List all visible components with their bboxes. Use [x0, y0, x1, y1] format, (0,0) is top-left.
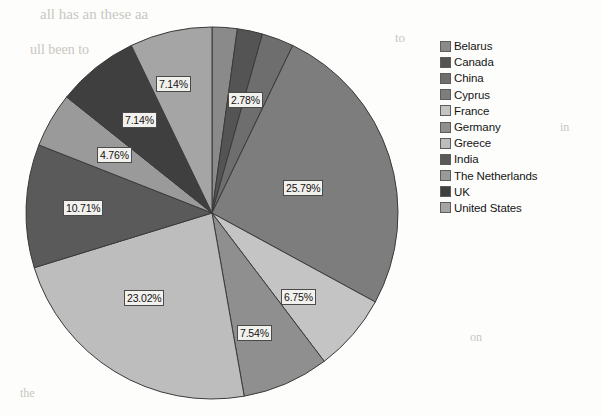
- legend-item-label: China: [454, 70, 484, 86]
- legend-swatch-icon: [440, 122, 451, 133]
- legend-item-india[interactable]: India: [440, 151, 538, 167]
- slice-label-germany: 7.54%: [237, 325, 272, 341]
- legend-item-canada[interactable]: Canada: [440, 54, 538, 70]
- legend-item-cyprus[interactable]: Cyprus: [440, 87, 538, 103]
- legend-item-the-netherlands[interactable]: The Netherlands: [440, 168, 538, 184]
- legend-item-label: The Netherlands: [454, 168, 538, 184]
- legend-swatch-icon: [440, 154, 451, 165]
- legend-swatch-icon: [440, 138, 451, 149]
- slice-label-cyprus: 25.79%: [283, 180, 323, 196]
- legend-item-uk[interactable]: UK: [440, 184, 538, 200]
- legend-item-france[interactable]: France: [440, 103, 538, 119]
- slice-label-united-states: 7.14%: [156, 76, 191, 92]
- legend-item-china[interactable]: China: [440, 70, 538, 86]
- legend-item-label: Canada: [454, 54, 494, 70]
- legend-swatch-icon: [440, 105, 451, 116]
- slice-label-india: 10.71%: [63, 200, 103, 216]
- chart-legend: BelarusCanadaChinaCyprusFranceGermanyGre…: [440, 38, 538, 216]
- legend-swatch-icon: [440, 41, 451, 52]
- legend-swatch-icon: [440, 186, 451, 197]
- legend-item-label: United States: [454, 200, 522, 216]
- legend-item-greece[interactable]: Greece: [440, 135, 538, 151]
- legend-item-label: Cyprus: [454, 87, 490, 103]
- legend-item-germany[interactable]: Germany: [440, 119, 538, 135]
- legend-item-label: Belarus: [454, 38, 492, 54]
- slice-label-china: 2.78%: [228, 92, 263, 108]
- legend-swatch-icon: [440, 170, 451, 181]
- legend-swatch-icon: [440, 202, 451, 213]
- legend-item-belarus[interactable]: Belarus: [440, 38, 538, 54]
- slice-label-greece: 23.02%: [124, 290, 164, 306]
- legend-swatch-icon: [440, 89, 451, 100]
- legend-swatch-icon: [440, 73, 451, 84]
- slice-label-netherlands: 4.76%: [97, 147, 132, 163]
- legend-item-label: UK: [454, 184, 470, 200]
- legend-swatch-icon: [440, 57, 451, 68]
- legend-item-label: France: [454, 103, 489, 119]
- legend-item-label: India: [454, 151, 478, 167]
- legend-item-label: Germany: [454, 119, 501, 135]
- slice-label-france: 6.75%: [281, 289, 316, 305]
- slice-label-uk: 7.14%: [122, 112, 157, 128]
- legend-item-united-states[interactable]: United States: [440, 200, 538, 216]
- legend-item-label: Greece: [454, 135, 491, 151]
